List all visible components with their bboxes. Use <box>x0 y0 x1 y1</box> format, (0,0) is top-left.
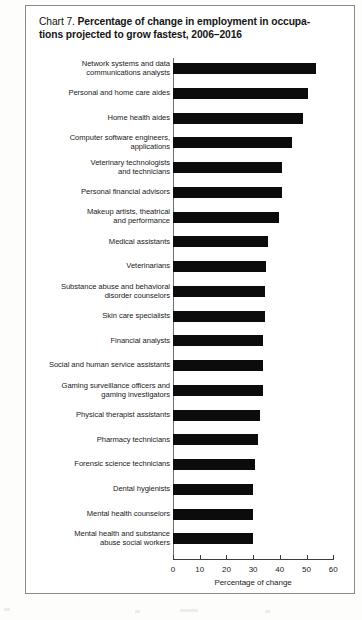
category-label: Forensic science technicians <box>74 459 170 468</box>
category-label: Veterinary technologists and technicians <box>91 158 170 176</box>
bar <box>173 459 255 470</box>
x-axis-line <box>173 559 334 560</box>
bar <box>173 286 265 297</box>
scanned-page: Chart 7. Percentage of change in employm… <box>0 0 362 620</box>
category-label: Skin care specialists <box>102 311 170 320</box>
x-axis-tick-label: 0 <box>163 565 183 574</box>
category-label: Computer software engineers, application… <box>70 133 170 151</box>
category-label: Veterinarians <box>126 261 170 270</box>
plot-area: 0102030405060 Network systems and data c… <box>26 6 356 595</box>
scan-artifact <box>180 609 198 612</box>
bar <box>173 410 260 421</box>
bar <box>173 113 303 124</box>
bar <box>173 533 253 544</box>
x-axis-tick-label: 30 <box>243 565 263 574</box>
category-label: Home health aides <box>108 113 170 122</box>
category-label: Mental health and substance abuse social… <box>74 529 170 547</box>
x-axis-tick-label: 60 <box>323 565 343 574</box>
chart-frame: Chart 7. Percentage of change in employm… <box>25 5 355 594</box>
x-axis-tick <box>200 555 201 559</box>
bar <box>173 63 316 74</box>
category-label: Makeup artists, theatrical and performan… <box>87 207 170 225</box>
category-label: Mental health counselors <box>87 509 170 518</box>
bar <box>173 311 265 322</box>
bar <box>173 187 282 198</box>
bar <box>173 360 263 371</box>
x-axis-tick <box>253 555 254 559</box>
x-axis-title: Percentage of change <box>183 578 323 587</box>
bar <box>173 162 282 173</box>
category-label: Gaming surveillance officers and gaming … <box>62 381 170 399</box>
bar <box>173 335 263 346</box>
x-axis-tick <box>226 555 227 559</box>
scan-artifact <box>135 610 140 613</box>
category-label: Physical therapist assistants <box>76 410 170 419</box>
category-label: Social and human service assistants <box>49 360 170 369</box>
bar <box>173 88 308 99</box>
x-axis-tick-label: 10 <box>190 565 210 574</box>
x-axis-tick <box>173 555 174 559</box>
bar <box>173 212 279 223</box>
bar <box>173 434 258 445</box>
x-axis-tick <box>280 555 281 559</box>
category-label: Personal and home care aides <box>68 88 170 97</box>
x-axis-tick <box>307 555 308 559</box>
category-label: Medical assistants <box>109 237 170 246</box>
bar <box>173 484 253 495</box>
scan-artifact <box>4 608 10 611</box>
bar <box>173 236 268 247</box>
x-axis-tick <box>333 555 334 559</box>
bar <box>173 137 292 148</box>
category-label: Substance abuse and behavioral disorder … <box>61 282 170 300</box>
x-axis-tick-label: 50 <box>297 565 317 574</box>
x-axis-tick-label: 20 <box>216 565 236 574</box>
bar <box>173 385 263 396</box>
category-label: Dental hygienists <box>113 484 170 493</box>
category-label: Network systems and data communications … <box>82 59 170 77</box>
category-label: Personal financial advisors <box>81 187 170 196</box>
bar <box>173 261 266 272</box>
x-axis-tick-label: 40 <box>270 565 290 574</box>
category-label: Financial analysts <box>111 336 170 345</box>
scan-artifact <box>265 610 270 613</box>
category-label: Pharmacy technicians <box>97 435 170 444</box>
bar <box>173 509 253 520</box>
